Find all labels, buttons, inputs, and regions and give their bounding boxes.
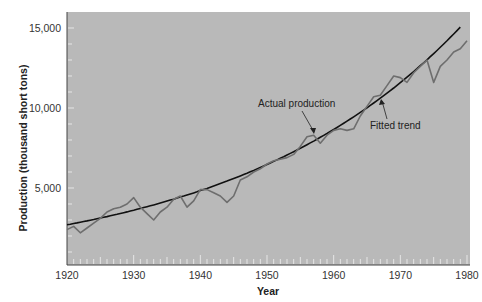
x-tick-labels: 1920193019401950196019701980	[55, 269, 479, 281]
x-tick-label: 1970	[389, 269, 413, 281]
y-tick-labels: 5,00010,00015,000	[29, 22, 61, 194]
y-tick-label: 15,000	[29, 22, 61, 34]
y-tick-label: 5,000	[35, 182, 61, 194]
production-chart: 5,00010,00015,000 1920193019401950196019…	[0, 0, 482, 302]
y-tick-label: 10,000	[29, 102, 61, 114]
x-tick-label: 1940	[189, 269, 213, 281]
plot-area	[67, 12, 470, 265]
x-tick-label: 1920	[55, 269, 79, 281]
x-tick-label: 1950	[255, 269, 279, 281]
annotation-fitted-trend: Fitted trend	[370, 120, 421, 131]
x-axis-title: Year	[257, 285, 279, 297]
y-axis-title: Production (thousand short tons)	[17, 65, 29, 232]
x-tick-label: 1960	[322, 269, 346, 281]
x-tick-label: 1930	[122, 269, 146, 281]
x-tick-label: 1980	[455, 269, 479, 281]
annotation-actual-production: Actual production	[258, 98, 335, 109]
